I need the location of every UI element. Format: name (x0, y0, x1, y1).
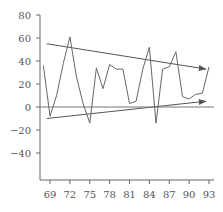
y-tick-label: 40 (18, 56, 31, 67)
x-tick-label: 72 (64, 189, 77, 200)
y-tick-label: 0 (25, 102, 31, 113)
x-tick-label: 69 (44, 189, 57, 200)
upper-trend-line (47, 44, 206, 69)
y-tick-label: 80 (18, 10, 31, 21)
annotations (40, 44, 214, 119)
x-tick-label: 81 (123, 189, 136, 200)
x-tick-label: 90 (183, 189, 196, 200)
x-tick-label: 93 (203, 189, 216, 200)
x-tick-label: 78 (103, 189, 116, 200)
y-tick-label: 60 (18, 33, 31, 44)
lower-trend-line (47, 101, 206, 118)
axes (36, 15, 214, 184)
line-chart: 806040200−20−40697275788184879093 (0, 0, 223, 212)
y-tick-label: −40 (10, 148, 31, 159)
x-tick-label: 75 (83, 189, 96, 200)
y-tick-label: −20 (10, 125, 31, 136)
tick-labels: 806040200−20−40697275788184879093 (10, 10, 215, 201)
x-tick-label: 87 (163, 189, 176, 200)
y-tick-label: 20 (18, 79, 31, 90)
x-tick-label: 84 (143, 189, 156, 200)
